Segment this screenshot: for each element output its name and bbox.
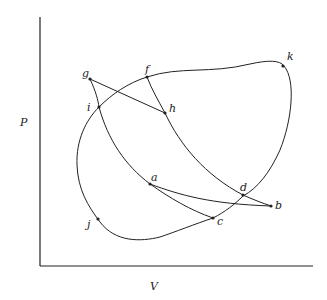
curve-g-i-a <box>90 79 150 184</box>
point-b <box>269 204 272 207</box>
curve-a-c <box>150 184 213 218</box>
label-j: j <box>84 218 91 231</box>
p-axis-label: P <box>19 116 28 129</box>
label-f: f <box>144 63 151 76</box>
label-h: h <box>169 102 176 115</box>
line-g-h <box>90 79 165 113</box>
label-d: d <box>240 181 247 194</box>
point-h <box>163 111 166 114</box>
line-a-b <box>150 184 271 206</box>
point-c <box>211 216 214 219</box>
label-b: b <box>275 199 282 212</box>
point-k <box>281 64 284 67</box>
point-j <box>96 217 99 220</box>
label-a: a <box>151 171 158 184</box>
point-i <box>97 105 100 108</box>
label-g: g <box>82 67 89 80</box>
label-k: k <box>287 50 294 63</box>
v-axis-label: V <box>150 280 159 293</box>
pv-diagram: P V g f h i a b c d j k <box>0 0 327 300</box>
curve-f-h-d-b <box>147 77 271 206</box>
label-i: i <box>87 101 91 114</box>
label-c: c <box>217 215 223 228</box>
